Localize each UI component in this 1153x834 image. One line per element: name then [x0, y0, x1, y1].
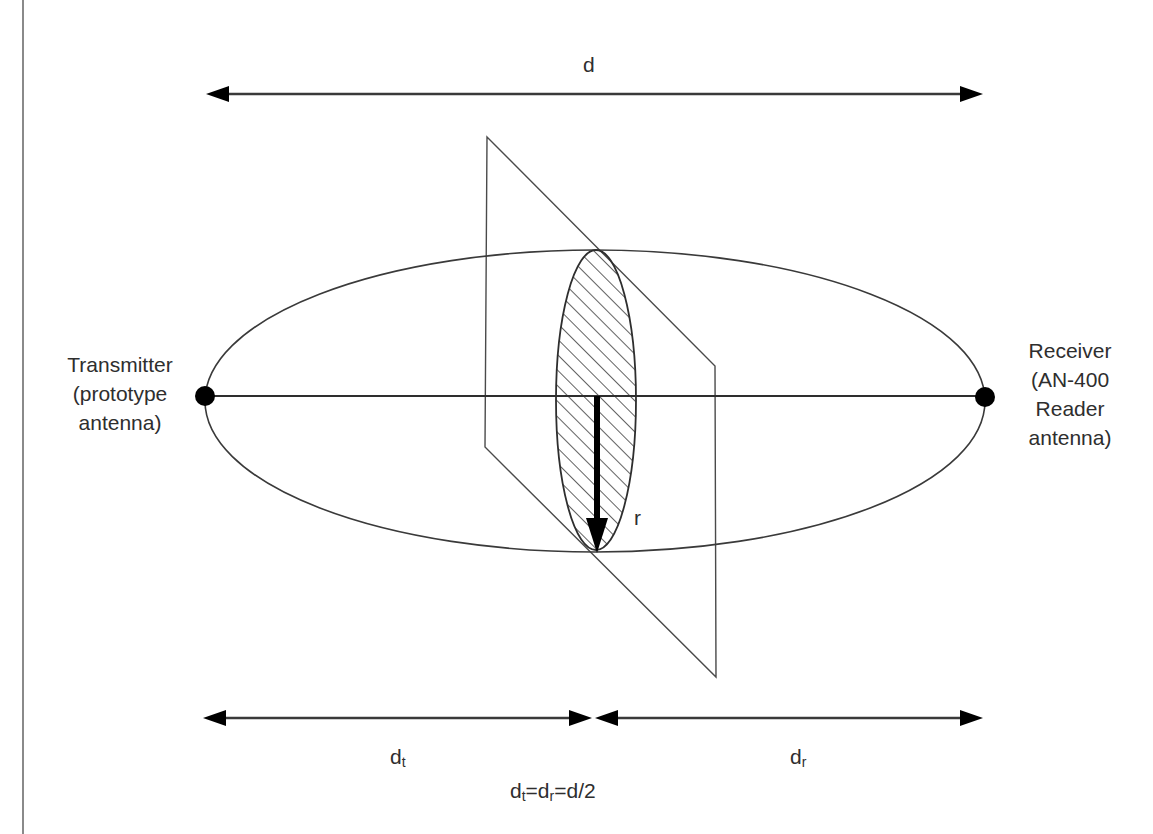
- eq-equals-2: =d/2: [554, 779, 595, 802]
- receiver-label-line-3: Reader: [995, 394, 1145, 423]
- total-distance-label: d: [583, 51, 595, 78]
- receiver-label-line-4: antenna): [995, 423, 1145, 452]
- dt-sub: t: [402, 754, 406, 770]
- dr-main: d: [790, 745, 802, 768]
- dt-label: dt: [390, 743, 406, 773]
- radius-label: r: [634, 504, 641, 531]
- receiver-distance-arrow: [595, 710, 983, 726]
- receiver-point: [975, 387, 995, 407]
- eq-part2-sub: r: [550, 788, 555, 804]
- receiver-label-line-2: (AN-400: [995, 365, 1145, 394]
- receiver-label-line-1: Receiver: [995, 336, 1145, 365]
- dr-label: dr: [790, 743, 806, 773]
- total-distance-arrow: [206, 86, 983, 102]
- equation-label: dt=dr=d/2: [510, 777, 596, 807]
- receiver-label: Receiver (AN-400 Reader antenna): [995, 336, 1145, 452]
- dt-main: d: [390, 745, 402, 768]
- transmitter-distance-arrow: [203, 710, 592, 726]
- transmitter-label: Transmitter (prototype antenna): [40, 350, 200, 437]
- transmitter-label-line-2: (prototype: [40, 379, 200, 408]
- eq-part1-main: d: [510, 779, 522, 802]
- transmitter-label-line-3: antenna): [40, 408, 200, 437]
- eq-part1-sub: t: [522, 788, 526, 804]
- eq-part2-main: d: [538, 779, 550, 802]
- transmitter-label-line-1: Transmitter: [40, 350, 200, 379]
- eq-equals-1: =: [526, 779, 538, 802]
- dr-sub: r: [802, 754, 807, 770]
